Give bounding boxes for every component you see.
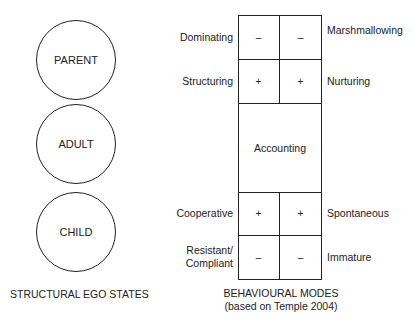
parent-circle: PARENT [36,20,116,100]
cell-nurturing: + [279,59,322,103]
cell-immature: – [279,235,322,279]
label-dominating: Dominating [180,31,233,44]
parent-label: PARENT [54,54,98,66]
label-nurturing: Nurturing [327,75,370,88]
cell-dominating: – [238,15,279,59]
label-marshmallowing: Marshmallowing [327,24,403,37]
child-label: CHILD [59,226,92,238]
cell-resistant-compliant: – [238,235,279,279]
behavioural-caption: BEHAVIOURAL MODES (based on Temple 2004) [208,287,354,313]
cell-structuring: + [238,59,279,103]
adult-label: ADULT [58,138,93,150]
behavioural-caption-title: BEHAVIOURAL MODES [208,287,354,300]
label-cooperative: Cooperative [176,207,233,220]
label-resistant-compliant: Resistant/ Compliant [186,244,233,270]
cell-marshmallowing: – [279,15,322,59]
label-resistant: Resistant/ [186,244,233,257]
child-circle: CHILD [36,192,116,272]
label-compliant: Compliant [186,257,233,270]
label-spontaneous: Spontaneous [327,207,389,220]
label-immature: Immature [327,251,371,264]
adult-circle: ADULT [36,104,116,184]
cell-cooperative: + [238,192,279,235]
behavioural-caption-source: (based on Temple 2004) [208,300,354,313]
accounting-cell: Accounting [238,103,322,192]
label-structuring: Structuring [182,75,233,88]
structural-caption: STRUCTURAL EGO STATES [10,288,142,301]
cell-spontaneous: + [279,192,322,235]
